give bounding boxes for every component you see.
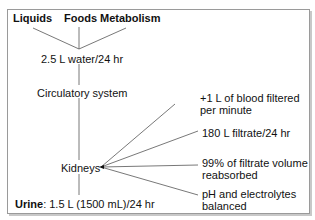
fact-ph-1: pH and electrolytes xyxy=(202,188,296,200)
kidneys-label: Kidneys xyxy=(61,162,100,174)
fact-reabsorbed-2: reabsorbed xyxy=(202,169,258,181)
source-foods: Foods xyxy=(64,12,97,24)
urine-value: : 1.5 L (1500 mL)/24 hr xyxy=(43,198,155,210)
fact-ph-2: balanced xyxy=(202,200,247,212)
connector-lines xyxy=(0,0,315,220)
source-liquids: Liquids xyxy=(13,12,52,24)
circulatory-label: Circulatory system xyxy=(37,87,127,99)
urine-output: Urine: 1.5 L (1500 mL)/24 hr xyxy=(15,198,155,210)
fact-filtrate: 180 L filtrate/24 hr xyxy=(202,127,290,139)
source-metabolism: Metabolism xyxy=(100,12,161,24)
fact-blood-filtered-2: per minute xyxy=(200,104,252,116)
fact-blood-filtered-1: +1 L of blood filtered xyxy=(200,92,300,104)
fact-reabsorbed-1: 99% of filtrate volume xyxy=(202,157,308,169)
intake-label: 2.5 L water/24 hr xyxy=(41,53,123,65)
urine-label: Urine xyxy=(15,198,43,210)
